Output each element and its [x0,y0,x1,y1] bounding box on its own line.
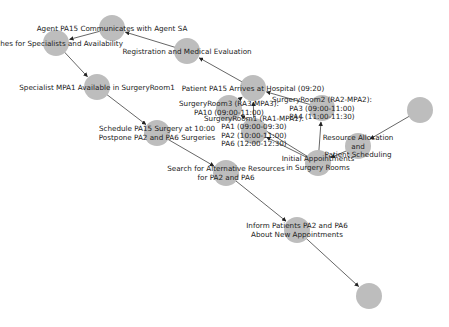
process-flow-graph: Agent PA15 Communicates with Agent SAarc… [0,0,449,327]
node-label-n9: Schedule PA15 Surgery at 10:00Postpone P… [99,124,216,141]
node-label-n3: Registration and Medical Evaluation [122,47,251,56]
node-label-n14: Inform Patients PA2 and PA6About New App… [246,221,348,238]
node-label-n4: Specialist MPA1 Available in SurgeryRoom… [19,83,174,92]
graph-node-n15 [356,283,382,309]
node-label-n13: Search for Alternative Resourcesfor PA2 … [167,164,285,181]
node-label-n8: SurgeryRoom1 (RA1-MPA1):PA1 (09:00-09:30… [204,114,304,148]
node-label-n2: arches for Specialists and Availability [0,39,124,48]
node-label-n11: Initial Appointmentsin Surgery Rooms [282,154,355,171]
node-label-n1: Agent PA15 Communicates with Agent SA [37,24,188,33]
node-label-n5: Patient PA15 Arrives at Hospital (09:20) [182,84,325,93]
graph-node-n12 [407,97,433,123]
nodes-layer [43,15,433,309]
